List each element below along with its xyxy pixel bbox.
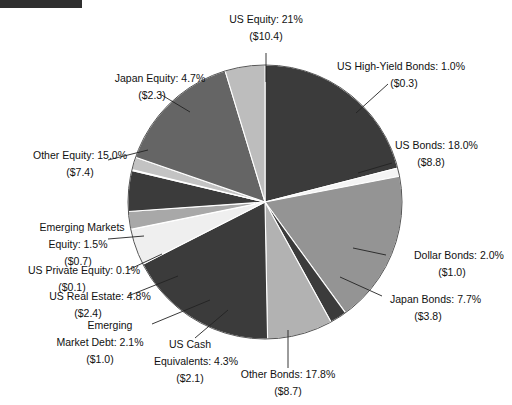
label-us-cash-equivalents-line1: US Cash	[169, 338, 211, 350]
label-emerging-markets-equity-line3: ($0.7)	[64, 255, 91, 267]
label-other-bonds-line2: ($8.7)	[274, 385, 301, 397]
label-other-bonds-line1: Other Bonds: 17.8%	[241, 368, 336, 380]
label-us-equity-line1: US Equity: 21%	[229, 13, 303, 25]
label-us-cash-equivalents-line3: ($2.1)	[176, 372, 203, 384]
pie-chart-svg: US Equity: 21% ($10.4) US High-Yield Bon…	[0, 0, 512, 405]
leader-line-us-high-yield-bonds	[356, 84, 388, 113]
label-other-equity-line1: Other Equity: 15.0%	[33, 149, 127, 161]
label-us-high-yield-bonds-line2: ($0.3)	[390, 77, 417, 89]
label-us-bonds-line1: US Bonds: 18.0%	[395, 139, 478, 151]
label-us-high-yield-bonds-line1: US High-Yield Bonds: 1.0%	[337, 60, 465, 72]
label-us-cash-equivalents-line2: Equivalents: 4.3%	[154, 355, 238, 367]
label-japan-bonds-line2: ($3.8)	[414, 310, 441, 322]
label-other-equity-line2: ($7.4)	[66, 166, 93, 178]
label-us-bonds-line2: ($8.8)	[417, 156, 444, 168]
label-emerging-markets-equity-line1: Emerging Markets	[39, 221, 124, 233]
pie-chart-figure: US Equity: 21% ($10.4) US High-Yield Bon…	[0, 0, 512, 405]
pie-slices-group	[128, 65, 402, 339]
label-emerging-markets-equity-line2: Equity: 1.5%	[49, 238, 108, 250]
label-dollar-bonds-line1: Dollar Bonds: 2.0%	[414, 249, 504, 261]
label-us-real-estate-line2: ($2.4)	[74, 307, 101, 319]
label-emerging-market-debt-line2: Market Debt: 2.1%	[57, 336, 144, 348]
label-japan-equity-line2: ($2.3)	[138, 89, 165, 101]
label-us-private-equity-line2: ($0.1)	[58, 281, 85, 293]
label-us-equity-line2: ($10.4)	[249, 30, 282, 42]
label-dollar-bonds-line2: ($1.0)	[438, 266, 465, 278]
label-emerging-market-debt-line3: ($1.0)	[86, 353, 113, 365]
label-japan-bonds-line1: Japan Bonds: 7.7%	[390, 293, 481, 305]
label-emerging-market-debt-line1: Emerging	[88, 319, 133, 331]
label-japan-equity-line1: Japan Equity: 4.7%	[115, 72, 205, 84]
